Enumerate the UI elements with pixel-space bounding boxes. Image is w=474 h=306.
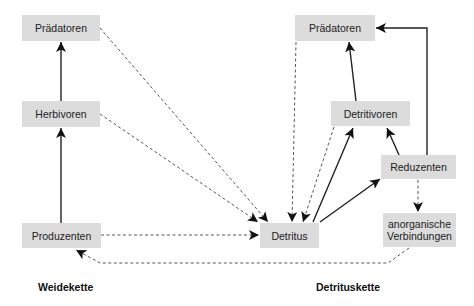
node-label: Prädatoren [35, 22, 87, 34]
node-label: Reduzenten [390, 161, 447, 173]
dashed-predators-detritus [100, 28, 268, 222]
node-inorganic: anorganische Verbindungen [383, 213, 456, 247]
label-detritus-chain: Detrituskette [316, 281, 380, 293]
node-label-line1: anorganische [388, 218, 451, 230]
node-detritivores: Detritivoren [331, 101, 410, 126]
node-label: Detritivoren [344, 108, 398, 120]
arrow-decomposers-detritivores [387, 128, 399, 155]
node-label: Prädatoren [309, 22, 361, 34]
arrow-detritus-detritivores [313, 128, 353, 222]
dashed-rpredators-detritus [292, 42, 296, 222]
diagram-arrows [0, 0, 474, 306]
node-decomposers: Reduzenten [381, 155, 456, 179]
arrow-decomposers-predators [376, 28, 427, 155]
dashed-herbivores-detritus [100, 114, 258, 222]
dashed-inorganic-producers [76, 248, 409, 263]
node-detritus: Detritus [260, 223, 319, 248]
node-right-predators: Prädatoren [295, 15, 375, 41]
node-producers: Produzenten [22, 223, 101, 248]
label-grazing-chain: Weidekette [38, 281, 93, 293]
node-label: Detritus [271, 230, 307, 242]
node-herbivores: Herbivoren [22, 101, 100, 127]
node-label: Herbivoren [35, 108, 86, 120]
node-left-predators: Prädatoren [22, 15, 100, 41]
arrow-detritivores-predators [349, 42, 356, 101]
node-label-line2: Verbindungen [387, 230, 452, 242]
node-label: Produzenten [32, 230, 92, 242]
